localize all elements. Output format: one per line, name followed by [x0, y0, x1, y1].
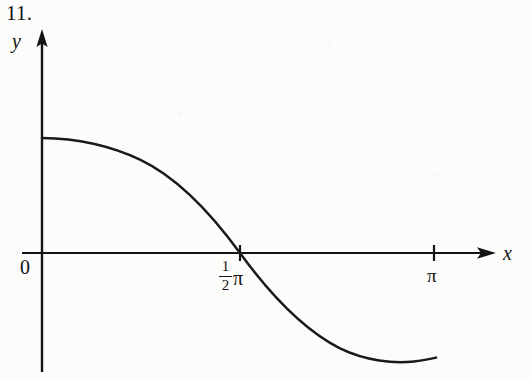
fraction-numerator: 1	[220, 259, 232, 275]
cosine-plot	[0, 0, 530, 380]
tick-label-half-pi: 1 2 π	[219, 258, 243, 293]
figure-container: 11. y x 0 1 2 π π	[0, 0, 530, 380]
origin-label: 0	[20, 256, 30, 279]
fraction-one-half: 1 2	[219, 259, 232, 294]
fraction-denominator: 2	[220, 278, 232, 294]
pi-symbol: π	[233, 267, 243, 290]
cosine-curve	[42, 138, 436, 362]
x-axis-label: x	[503, 242, 512, 265]
y-axis-label: y	[12, 30, 21, 53]
tick-label-pi: π	[427, 265, 437, 287]
